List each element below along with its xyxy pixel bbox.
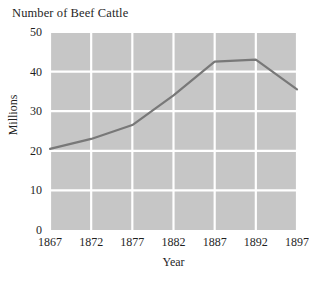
y-tick-label: 30 (2, 105, 42, 117)
y-tick-label: 40 (2, 66, 42, 78)
beef-cattle-line-chart: Number of Beef Cattle Millions 010203040… (0, 0, 309, 283)
x-tick-label: 1897 (272, 236, 309, 248)
y-tick-label: 0 (2, 224, 42, 236)
y-tick-label: 20 (2, 145, 42, 157)
x-axis-title: Year (50, 255, 297, 269)
y-tick-label: 10 (2, 184, 42, 196)
y-tick-label: 50 (2, 26, 42, 38)
